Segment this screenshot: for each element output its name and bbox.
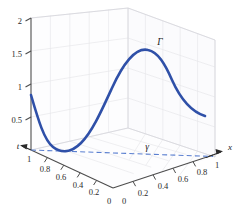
wall-left-back — [31, 8, 128, 150]
t-tick-label: 0.8 — [40, 164, 51, 174]
z-tick-label: 1 — [18, 82, 22, 92]
axis-label-t: t — [17, 141, 20, 151]
x-tick-label: 0.2 — [138, 188, 149, 198]
axis-z-ticklabels: 2 1.5 1 0.5 — [11, 16, 22, 125]
label-curve-gamma-lower: γ — [145, 142, 149, 152]
figure-3d-plot: 2 1.5 1 0.5 1 0.8 0.6 0.4 0.2 0 0 0.2 0.… — [0, 0, 237, 223]
x-tick-label: 0.8 — [197, 167, 208, 177]
x-tick-label: 0.4 — [158, 181, 169, 191]
label-curve-gamma-upper: Γ — [156, 37, 163, 47]
t-tick-label: 1 — [27, 154, 31, 164]
axis-z — [26, 18, 32, 150]
plot-canvas: 2 1.5 1 0.5 1 0.8 0.6 0.4 0.2 0 0 0.2 0.… — [0, 0, 237, 223]
z-tick-label: 0.5 — [11, 115, 22, 125]
t-tick-label: 0.2 — [89, 187, 100, 197]
z-tick-label: 1.5 — [11, 49, 22, 59]
t-tick-label: 0.6 — [56, 172, 67, 182]
x-tick-label: 1 — [215, 160, 219, 170]
plot-walls — [31, 8, 215, 188]
x-tick-label: 0 — [122, 196, 126, 206]
t-tick-label: 0 — [107, 196, 111, 206]
axis-label-x: x — [227, 142, 232, 152]
t-tick-label: 0.4 — [73, 180, 84, 190]
x-tick-label: 0.6 — [178, 174, 189, 184]
z-tick-label: 2 — [18, 16, 22, 26]
